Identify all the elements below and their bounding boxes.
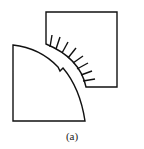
quarter-circle-shape [13,45,85,121]
square-shape [46,12,117,87]
hair-lines [50,35,95,81]
figure-caption: (a) [0,130,144,142]
diagram [0,0,144,149]
